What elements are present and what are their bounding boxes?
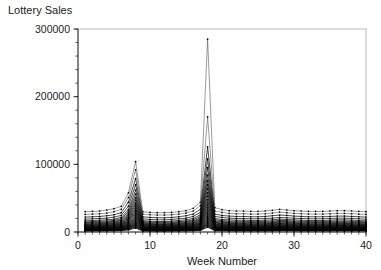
data-point-marker [358,213,360,215]
data-point-marker [293,210,295,212]
data-point-marker [178,218,180,220]
data-point-marker [207,195,209,197]
data-point-marker [228,213,230,215]
data-point-marker [84,218,86,220]
data-point-marker [207,188,209,190]
data-point-marker [315,211,317,213]
data-point-marker [178,213,180,215]
data-point-marker [120,208,122,210]
data-point-marker [286,209,288,211]
data-point-marker [315,213,317,215]
data-point-marker [365,211,367,213]
data-point-marker [135,161,137,163]
data-point-marker [308,211,310,213]
series-line [85,39,366,213]
data-point-marker [221,217,223,219]
data-point-marker [300,216,302,218]
x-tick-label: 10 [144,239,156,251]
data-point-marker [308,230,310,232]
data-point-marker [293,230,295,232]
data-point-marker [207,208,209,210]
data-point-marker [214,230,216,232]
data-point-marker [308,218,310,220]
data-point-marker [178,216,180,218]
data-point-marker [315,218,317,220]
data-point-marker [358,216,360,218]
data-point-marker [99,213,101,215]
data-point-marker [243,216,245,218]
data-point-marker [192,216,194,218]
data-point-marker [156,214,158,216]
data-point-marker [92,216,94,218]
chart-canvas: Lottery Sales010000020000030000001020304… [0,0,381,270]
data-point-marker [351,230,353,232]
data-point-marker [322,218,324,220]
data-point-marker [156,212,158,214]
data-point-marker [120,212,122,214]
data-point-marker [329,213,331,215]
data-point-marker [171,217,173,219]
data-point-marker [264,213,266,215]
data-point-marker [286,215,288,217]
data-point-marker [135,204,137,206]
data-point-marker [185,215,187,217]
data-point-marker [84,216,86,218]
data-point-marker [272,215,274,217]
data-point-marker [300,218,302,220]
data-point-marker [207,167,209,169]
data-point-marker [228,230,230,232]
data-point-marker [221,209,223,211]
data-point-marker [92,211,94,213]
data-point-marker [300,210,302,212]
data-point-marker [279,214,281,216]
data-point-marker [113,230,115,232]
data-point-marker [358,211,360,213]
data-point-marker [92,230,94,232]
x-tick-label: 20 [216,239,228,251]
series-line [85,117,366,215]
data-point-marker [322,213,324,215]
data-point-marker [344,213,346,215]
data-point-marker [135,197,137,199]
y-tick-label: 200000 [35,90,70,102]
data-point-marker [250,218,252,220]
data-point-marker [142,230,144,232]
data-point-marker [192,210,194,212]
data-point-marker [293,215,295,217]
data-point-marker [92,213,94,215]
data-point-marker [365,230,367,232]
data-point-marker [336,213,338,215]
data-point-marker [149,217,151,219]
data-point-marker [106,230,108,232]
data-point-marker [84,230,86,232]
data-point-marker [135,184,137,186]
data-point-marker [99,218,101,220]
data-point-marker [171,214,173,216]
data-point-marker [322,230,324,232]
data-point-marker [185,210,187,212]
data-point-marker [207,199,209,201]
data-point-marker [315,216,317,218]
data-point-marker [250,213,252,215]
data-point-marker [250,211,252,213]
y-axis-title: Lottery Sales [8,4,73,16]
data-point-marker [192,213,194,215]
data-point-marker [164,217,166,219]
data-point-marker [135,227,137,229]
data-point-marker [250,216,252,218]
data-point-marker [171,212,173,214]
data-point-marker [113,211,115,213]
data-point-marker [264,216,266,218]
data-point-marker [351,210,353,212]
data-point-marker [272,217,274,219]
data-point-marker [358,230,360,232]
data-point-marker [178,211,180,213]
data-point-marker [185,230,187,232]
data-point-marker [257,218,259,220]
data-point-marker [149,230,151,232]
data-point-marker [243,218,245,220]
data-point-marker [228,215,230,217]
data-point-marker [279,211,281,213]
data-point-marker [344,230,346,232]
data-point-marker [120,215,122,217]
